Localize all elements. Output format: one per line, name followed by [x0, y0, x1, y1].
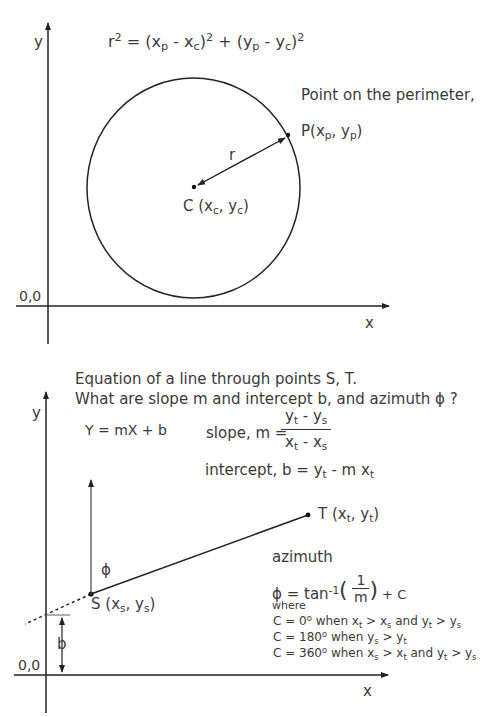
line-title-2: What are slope m and intercept b, and az… — [75, 392, 458, 407]
perimeter-point — [286, 133, 290, 137]
azimuth-title: azimuth — [272, 550, 333, 565]
x-axis-label-2: x — [363, 684, 372, 699]
origin-label-1: 0,0 — [19, 289, 41, 303]
line-title-1: Equation of a line through points S, T. — [75, 372, 357, 387]
circle-equation: r2 = (xp - xc)2 + (yp - yc)2 — [108, 32, 304, 52]
slope-fraction: yt - ys xt - xs — [281, 407, 331, 452]
y-axis-label-1: y — [34, 35, 43, 50]
where-label: where — [272, 600, 306, 611]
phi-label: ϕ — [101, 563, 111, 578]
center-point — [192, 185, 196, 189]
point-t-label: T (xt, yt) — [318, 507, 379, 524]
point-t — [306, 513, 311, 518]
radius-arrow — [198, 138, 285, 185]
point-s-label: S (xs, ys) — [91, 597, 155, 614]
perimeter-point-label: P(xp, yp) — [301, 124, 362, 141]
perimeter-title: Point on the perimeter, — [301, 88, 475, 103]
diagram-canvas — [0, 0, 489, 717]
intercept-formula: intercept, b = yt - m xt — [205, 463, 374, 480]
radius-label: r — [229, 148, 235, 163]
line-equation: Y = mX + b — [85, 423, 167, 437]
x-axis-label-1: x — [365, 316, 374, 331]
origin-label-2: 0,0 — [18, 658, 40, 672]
b-label: b — [57, 637, 67, 652]
line-extension-dotted — [25, 594, 91, 624]
condition-0: C = 0o when xt > xs and yt > ys — [273, 614, 461, 629]
slope-label: slope, m = — [206, 426, 287, 441]
center-point-label: C (xc, yc) — [183, 199, 249, 216]
condition-2: C = 360o when xs > xt and yt > ys — [273, 646, 476, 661]
y-axis-label-2: y — [32, 406, 41, 421]
condition-1: C = 180o when ys > yt — [273, 630, 407, 645]
